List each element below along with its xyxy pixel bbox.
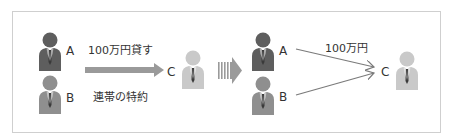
- right-person-b-label: B: [279, 90, 287, 104]
- right-person-a-label: A: [279, 44, 288, 58]
- diagram-frame: [13, 12, 441, 133]
- left-person-b-label: B: [66, 91, 74, 105]
- left-person-c-label: C: [167, 65, 175, 79]
- left-person-a-label: A: [66, 44, 75, 58]
- loan-label: 100万円貸す: [88, 43, 153, 57]
- right-person-c-label: C: [381, 65, 389, 79]
- amount-label: 100万円: [325, 42, 368, 55]
- joint-liability-diagram: A 100万円貸す B 連帯の特約 C A B 100万円 C: [0, 0, 457, 139]
- joint-liability-clause-label: 連帯の特約: [93, 90, 148, 104]
